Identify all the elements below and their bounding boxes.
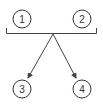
node-3-label: 3	[19, 84, 25, 95]
node-1-label: 1	[19, 14, 25, 25]
node-2: 2	[73, 10, 91, 28]
edge-to-node-3	[28, 34, 53, 78]
group-bracket	[7, 28, 97, 34]
node-1: 1	[13, 10, 31, 28]
node-4-label: 4	[79, 84, 85, 95]
edge-to-node-4	[53, 34, 76, 78]
diagram-canvas: 1 2 3 4	[0, 0, 103, 108]
node-2-label: 2	[79, 14, 85, 25]
node-4: 4	[73, 80, 91, 98]
node-3: 3	[13, 80, 31, 98]
